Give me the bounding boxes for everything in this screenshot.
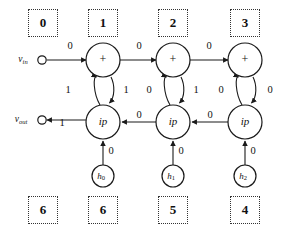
- edge-ip2-to-adder2: [164, 77, 170, 105]
- vout-label: vout: [15, 114, 28, 125]
- edge-ip3-to-adder3: [236, 77, 242, 105]
- bottom-box-3-value: 4: [242, 202, 249, 218]
- top-box-2-value: 2: [170, 15, 177, 31]
- weight-ip3-to-ip2: 0: [207, 109, 212, 120]
- h-node-1-label-sub: 1: [172, 174, 175, 181]
- top-box-0: 0: [28, 9, 58, 37]
- bottom-box-3: 4: [230, 196, 260, 224]
- edge-adder3-to-ip3: [252, 77, 256, 103]
- weight-adder1-to-ip1: 1: [123, 84, 128, 95]
- bottom-box-2: 5: [158, 196, 188, 224]
- bottom-box-0-value: 6: [40, 202, 47, 218]
- weight-adder2-to-adder3: 0: [206, 40, 211, 51]
- top-box-3-value: 3: [242, 15, 249, 31]
- vin-port-icon: [38, 56, 46, 64]
- weight-adder3-to-ip3: 0: [267, 84, 272, 95]
- bottom-box-1: 6: [88, 196, 118, 224]
- weight-adder2-to-ip2: 1: [193, 84, 198, 95]
- top-box-0-value: 0: [40, 15, 47, 31]
- signal-flow-diagram: 0 1 2 3 6 6 5 4: [0, 0, 285, 235]
- bottom-box-2-value: 5: [170, 202, 177, 218]
- weight-h2-to-ip3: 0: [250, 145, 255, 156]
- weight-ip1-to-vout: 1: [59, 117, 64, 128]
- bottom-box-1-value: 6: [100, 202, 107, 218]
- weight-ip2-to-ip1: 0: [136, 109, 141, 120]
- edge-adder1-to-ip1: [110, 77, 114, 103]
- bottom-box-0: 6: [28, 196, 58, 224]
- adder-node-2-label: +: [170, 52, 177, 66]
- weight-ip2-to-adder2: 0: [146, 84, 151, 95]
- ip-node-3-label: ip: [241, 115, 250, 127]
- ip-node-2-label: ip: [169, 115, 178, 127]
- edge-ip1-to-adder1: [94, 77, 100, 105]
- vout-label-sub: out: [19, 118, 28, 125]
- h-node-0-label-sub: 0: [102, 174, 105, 181]
- weight-h1-to-ip2: 0: [178, 145, 183, 156]
- ip-node-1-label: ip: [99, 115, 108, 127]
- top-box-3: 3: [230, 9, 260, 37]
- weight-h0-to-ip1: 0: [108, 145, 113, 156]
- adder-node-1-label: +: [100, 52, 107, 66]
- top-box-2: 2: [158, 9, 188, 37]
- weight-ip3-to-adder3: 0: [218, 84, 223, 95]
- top-box-1: 1: [88, 9, 118, 37]
- top-box-1-value: 1: [100, 15, 107, 31]
- vin-label-sub: in: [23, 58, 28, 65]
- vin-label: vin: [18, 54, 27, 65]
- vout-port-icon: [38, 116, 46, 124]
- h-node-2-label-sub: 2: [244, 174, 247, 181]
- adder-node-3-label: +: [242, 52, 249, 66]
- weight-adder1-to-adder2: 0: [136, 40, 141, 51]
- weight-vin-to-adder1: 0: [67, 40, 72, 51]
- weight-ip1-to-adder1: 1: [65, 84, 70, 95]
- edge-adder2-to-ip2: [180, 77, 184, 103]
